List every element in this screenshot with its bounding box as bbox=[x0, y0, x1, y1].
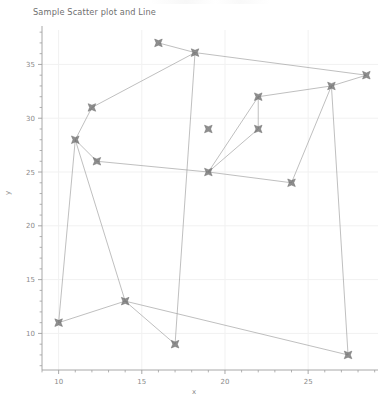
chart-figure: Sample Scatter plot and Line y x 1015202… bbox=[0, 0, 388, 404]
svg-text:15: 15 bbox=[137, 378, 146, 386]
svg-text:25: 25 bbox=[26, 169, 35, 177]
svg-text:25: 25 bbox=[304, 378, 313, 386]
axis-lines bbox=[42, 26, 378, 370]
data-line-series bbox=[59, 43, 367, 355]
svg-text:10: 10 bbox=[26, 330, 35, 338]
plot-canvas: 10152025101520253035 bbox=[0, 0, 388, 404]
svg-text:10: 10 bbox=[54, 378, 63, 386]
axis-tick-labels: 10152025101520253035 bbox=[26, 61, 313, 386]
grid-lines bbox=[42, 30, 378, 370]
svg-text:15: 15 bbox=[26, 276, 35, 284]
svg-text:20: 20 bbox=[221, 378, 230, 386]
svg-text:20: 20 bbox=[26, 222, 35, 230]
axis-ticks bbox=[38, 32, 375, 374]
svg-text:35: 35 bbox=[26, 61, 35, 69]
svg-text:30: 30 bbox=[26, 115, 35, 123]
